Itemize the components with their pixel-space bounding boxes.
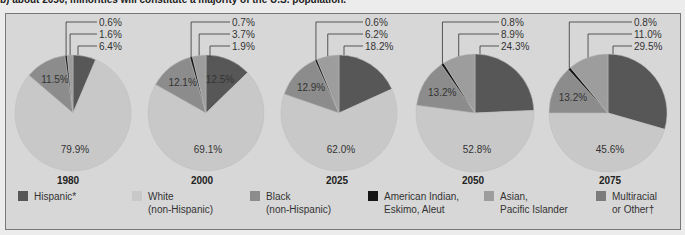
label-white: 79.9% — [61, 144, 89, 155]
pie-1980: 79.9%11.5%0.6%1.6%6.4% — [15, 17, 131, 171]
leader-line — [316, 22, 363, 60]
leader-label: 11.0% — [634, 29, 662, 40]
leader-label: 0.7% — [232, 17, 255, 28]
leader-line — [459, 34, 499, 56]
label-black: 13.2% — [559, 92, 587, 103]
leader-label: 24.3% — [501, 41, 529, 52]
legend-swatch — [250, 191, 260, 201]
pie-2075: 45.6%13.2%0.8%11.0%29.5% — [549, 17, 667, 172]
pie-2050: 52.8%13.2%0.8%8.9%24.3% — [416, 17, 534, 172]
legend-label: White (non-Hispanic) — [148, 190, 213, 216]
legend-swatch — [484, 191, 494, 201]
leader-label: 29.5% — [634, 41, 662, 52]
pie-charts: 79.9%11.5%0.6%1.6%6.4%69.1%12.1%0.7%3.7%… — [0, 0, 685, 235]
legend-label: Asian, Pacific Islander — [500, 190, 568, 216]
leader-label: 1.6% — [99, 29, 122, 40]
leader-line — [480, 46, 499, 54]
label-white: 62.0% — [327, 144, 355, 155]
leader-label: 1.9% — [232, 41, 255, 52]
leader-line — [199, 34, 230, 55]
pie-2025: 62.0%12.9%0.6%6.2%18.2% — [281, 17, 397, 171]
legend-item-multiracial: Multiracial or Other† — [596, 190, 657, 216]
leader-line — [66, 22, 97, 55]
pie-slice-hispanic — [475, 54, 534, 113]
legend-swatch — [18, 191, 28, 201]
legend-swatch — [596, 191, 606, 201]
leader-label: 0.6% — [365, 17, 388, 28]
year-label: 2075 — [599, 175, 621, 186]
legend-item-hispanic: Hispanic* — [18, 190, 76, 203]
year-label: 2025 — [326, 175, 348, 186]
leader-line — [78, 46, 97, 55]
leader-label: 0.8% — [501, 17, 524, 28]
leader-line — [328, 34, 363, 56]
label-black: 11.5% — [41, 74, 69, 85]
legend-label: Multiracial or Other† — [612, 190, 657, 216]
legend-label: Black (non-Hispanic) — [266, 190, 331, 216]
label-black: 12.1% — [168, 77, 196, 88]
leader-label: 6.4% — [99, 41, 122, 52]
label-white: 45.6% — [596, 144, 624, 155]
year-label: 1980 — [57, 175, 79, 186]
legend-swatch — [132, 191, 142, 201]
leader-label: 3.7% — [232, 29, 255, 40]
label-hispanic: 12.5% — [206, 74, 234, 85]
leader-line — [344, 46, 363, 55]
pie-slice-white — [416, 105, 534, 172]
leader-label: 8.9% — [501, 29, 524, 40]
label-black: 13.2% — [428, 87, 456, 98]
label-white: 52.8% — [463, 144, 491, 155]
leader-label: 0.6% — [99, 17, 122, 28]
leader-label: 6.2% — [365, 29, 388, 40]
leader-line — [191, 22, 230, 57]
legend-item-white: White (non-Hispanic) — [132, 190, 213, 216]
year-label: 2050 — [462, 175, 484, 186]
pie-2000: 69.1%12.1%0.7%3.7%1.9%12.5% — [148, 17, 264, 171]
legend-label: American Indian, Eskimo, Aleut — [384, 190, 459, 216]
leader-label: 18.2% — [365, 41, 393, 52]
leader-line — [70, 34, 97, 55]
legend-item-black: Black (non-Hispanic) — [250, 190, 331, 216]
leader-line — [613, 46, 632, 54]
legend-item-asian: Asian, Pacific Islander — [484, 190, 568, 216]
label-black: 12.9% — [297, 82, 325, 93]
year-label: 2000 — [191, 175, 213, 186]
legend-item-american_indian: American Indian, Eskimo, Aleut — [368, 190, 459, 216]
legend-label: Hispanic* — [34, 190, 76, 203]
leader-label: 0.8% — [634, 17, 657, 28]
legend-swatch — [368, 191, 378, 201]
label-white: 69.1% — [194, 144, 222, 155]
